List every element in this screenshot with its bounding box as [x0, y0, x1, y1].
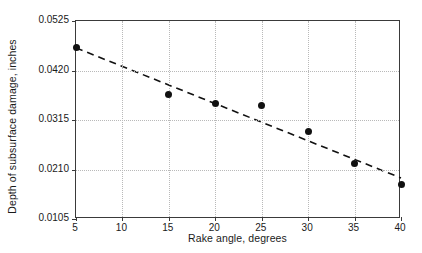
x-axis-tick-label: 25	[246, 222, 276, 233]
x-axis-tick-mark	[401, 217, 402, 221]
gridline-horizontal	[76, 170, 399, 171]
x-axis-tick-label: 10	[106, 222, 136, 233]
plot-area	[75, 20, 400, 218]
gridline-vertical	[308, 21, 309, 217]
x-axis-tick-label: 30	[292, 222, 322, 233]
x-axis-tick-mark	[76, 217, 77, 221]
data-point	[305, 128, 312, 135]
y-axis-tick-mark	[72, 21, 76, 22]
y-axis-title: Depth of subsurface damage, inches	[0, 0, 24, 253]
y-axis-tick-label: 0.0420	[25, 64, 69, 75]
gridline-vertical	[262, 21, 263, 217]
gridline-vertical	[169, 21, 170, 217]
x-axis-tick-mark	[262, 217, 263, 221]
data-point	[398, 181, 405, 188]
x-axis-tick-label: 15	[153, 222, 183, 233]
y-axis-tick-mark	[72, 120, 76, 121]
y-axis-tick-mark	[72, 170, 76, 171]
x-axis-tick-mark	[355, 217, 356, 221]
y-axis-tick-label: 0.0525	[25, 14, 69, 25]
x-axis-tick-mark	[122, 217, 123, 221]
gridline-horizontal	[76, 120, 399, 121]
gridline-vertical	[215, 21, 216, 217]
trend-line	[76, 48, 401, 178]
x-axis-tick-mark	[308, 217, 309, 221]
y-axis-tick-label: 0.0210	[25, 163, 69, 174]
gridline-horizontal	[76, 71, 399, 72]
gridline-vertical	[355, 21, 356, 217]
x-axis-title: Rake angle, degrees	[75, 232, 400, 244]
data-point	[73, 44, 80, 51]
x-axis-tick-label: 40	[385, 222, 415, 233]
y-axis-tick-label: 0.0315	[25, 113, 69, 124]
x-axis-tick-label: 35	[339, 222, 369, 233]
data-point	[165, 91, 172, 98]
gridline-vertical	[122, 21, 123, 217]
x-axis-tick-mark	[169, 217, 170, 221]
x-axis-tick-mark	[215, 217, 216, 221]
chart-figure: Depth of subsurface damage, inches Rake …	[0, 0, 422, 253]
x-axis-tick-label: 5	[60, 222, 90, 233]
x-axis-tick-label: 20	[199, 222, 229, 233]
y-axis-tick-mark	[72, 71, 76, 72]
